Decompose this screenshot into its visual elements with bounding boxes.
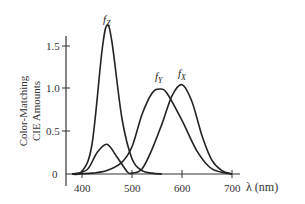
curve-label-fz: fZ	[103, 13, 111, 28]
y-axis-label-line2: CIE Amounts	[30, 76, 43, 147]
y-axis-label-line1: Color-Matching	[17, 76, 30, 147]
curve-fy	[72, 89, 232, 174]
x-tick-label-600: 600	[174, 182, 191, 194]
curves	[72, 25, 232, 174]
x-tick-label-400: 400	[74, 182, 91, 194]
x-axis-label: λ (nm)	[246, 180, 278, 195]
y-axis-label: Color-Matching CIE Amounts	[2, 56, 58, 166]
y-tick-label-0: 0	[52, 168, 58, 180]
curve-label-fx: fX	[178, 67, 187, 82]
y-tick-label-1.5: 1.5	[46, 40, 60, 52]
x-tick-label-500: 500	[124, 182, 141, 194]
curve-label-fy: fY	[155, 70, 164, 85]
curve-fx	[72, 85, 232, 174]
x-tick-label-700: 700	[224, 182, 241, 194]
